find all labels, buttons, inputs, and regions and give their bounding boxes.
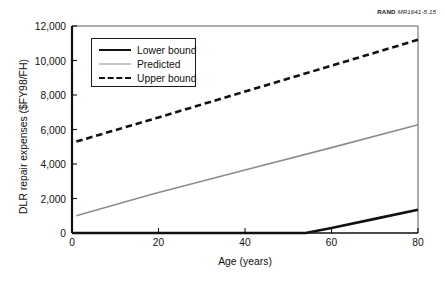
plot-canvas bbox=[0, 0, 445, 281]
legend-item-lower-bound: Lower bound bbox=[99, 43, 197, 57]
legend-line-upper-bound-icon bbox=[99, 73, 131, 83]
legend-line-lower-bound-icon bbox=[99, 45, 131, 55]
series-line-predicted bbox=[76, 125, 418, 216]
legend-label-predicted: Predicted bbox=[137, 59, 181, 70]
legend-item-predicted: Predicted bbox=[99, 57, 181, 71]
chart-legend: Lower bound Predicted Upper bound bbox=[91, 38, 196, 87]
chart-figure: RAND MR1641-5.15 DLR repair expenses ($F… bbox=[0, 0, 445, 281]
legend-label-upper-bound: Upper bound bbox=[137, 73, 197, 84]
legend-line-predicted-icon bbox=[99, 59, 131, 69]
legend-label-lower-bound: Lower bound bbox=[137, 45, 197, 56]
legend-item-upper-bound: Upper bound bbox=[99, 71, 197, 85]
